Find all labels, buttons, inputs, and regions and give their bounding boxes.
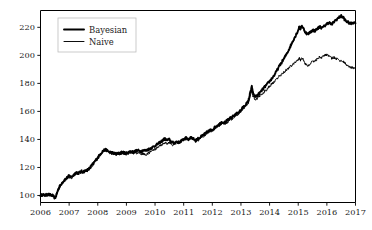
legend-box — [58, 18, 136, 52]
x-tick-label: 2012 — [202, 207, 223, 217]
y-tick-label: 140 — [19, 134, 35, 144]
x-tick-label: 2013 — [231, 207, 252, 217]
x-tick-label: 2017 — [345, 207, 366, 217]
y-tick-label: 100 — [19, 190, 35, 200]
y-tick-label: 180 — [19, 78, 35, 88]
x-tick-label: 2014 — [259, 207, 280, 217]
x-tick-label: 2015 — [288, 207, 309, 217]
y-tick-label: 220 — [19, 22, 35, 32]
chart-legend: BayesianNaive — [58, 18, 136, 52]
x-tick-label: 2008 — [87, 207, 108, 217]
y-tick-label: 200 — [19, 50, 35, 60]
x-tick-label: 2007 — [59, 207, 80, 217]
y-tick-label: 120 — [19, 162, 35, 172]
x-tick-label: 2009 — [116, 207, 137, 217]
legend-label-naive: Naive — [89, 37, 114, 47]
legend-label-bayesian: Bayesian — [89, 25, 128, 35]
x-tick-label: 2010 — [145, 207, 166, 217]
x-tick-label: 2011 — [173, 207, 194, 217]
chart-figure: 100120140160180200220 200620072008200920… — [0, 0, 372, 230]
x-tick-label: 2016 — [316, 207, 337, 217]
x-tick-label: 2006 — [30, 207, 51, 217]
line-chart: 100120140160180200220 200620072008200920… — [0, 0, 372, 230]
y-tick-label: 160 — [19, 106, 35, 116]
